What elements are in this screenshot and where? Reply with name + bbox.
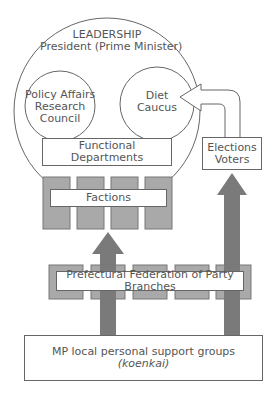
policy-council-line3: Council <box>25 113 95 125</box>
elections-line2: Voters <box>215 154 250 166</box>
functional-departments-label: Functional Departments <box>43 140 171 164</box>
support-groups-line2: (koenkai) <box>118 358 170 370</box>
support-groups-box: MP local personal support groups (koenka… <box>24 335 263 381</box>
diet-caucus-line2: Caucus <box>125 102 189 114</box>
factions-label: Factions <box>86 192 131 204</box>
elections-line1: Elections <box>207 142 257 154</box>
elections-box: Elections Voters <box>202 137 262 170</box>
functional-departments-box: Functional Departments <box>42 138 172 166</box>
factions-box: Factions <box>50 189 167 207</box>
policy-council-label: Policy Affairs Research Council <box>25 89 95 125</box>
prefectural-federation-box: Prefectural Federation of Party Branches <box>56 271 244 291</box>
leadership-label: LEADERSHIP President (Prime Minister) <box>40 29 174 53</box>
prefectural-federation-label: Prefectural Federation of Party Branches <box>57 269 243 293</box>
diet-caucus-label: Diet Caucus <box>125 90 189 114</box>
leadership-subtitle: President (Prime Minister) <box>40 41 174 53</box>
